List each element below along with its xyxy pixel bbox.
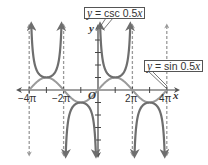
graph-canvas — [0, 0, 208, 165]
sin-label: y = sin 0.5x — [144, 60, 203, 72]
csc-branch — [31, 26, 61, 77]
csc-branch — [100, 26, 130, 77]
sin-label-text: = sin 0.5 — [152, 60, 195, 72]
label-leader-lines — [100, 18, 167, 88]
sin-label-leader — [148, 71, 166, 88]
tick-label-neg2pi: −2π — [52, 93, 70, 104]
csc-branch — [66, 103, 96, 154]
y-axis-label: y — [89, 22, 94, 34]
origin-label: O — [88, 89, 96, 101]
csc-label-text: = csc 0.5 — [92, 7, 137, 19]
tick-label-2pi: 2π — [125, 93, 137, 104]
csc-label: y = csc 0.5x — [84, 7, 145, 19]
csc-label-leader-2 — [100, 18, 106, 27]
sin-label-leader-2 — [152, 71, 167, 86]
csc-branch — [135, 103, 165, 154]
tick-label-neg4pi: −4π — [18, 93, 36, 104]
tick-label-4pi: 4π — [159, 93, 171, 104]
x-axis-label: x — [173, 89, 179, 101]
sin-label-x: x — [195, 60, 200, 72]
csc-label-x: x — [137, 7, 142, 19]
